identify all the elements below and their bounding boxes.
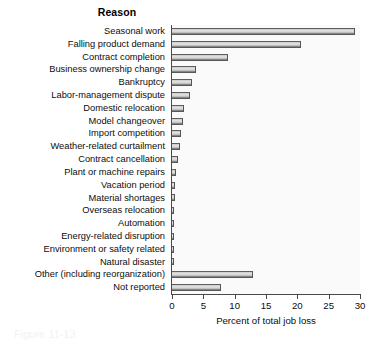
bar-category-label: Other (including reorganization) bbox=[35, 268, 165, 281]
bar-row: Not reported bbox=[0, 281, 382, 294]
bar-row: Domestic relocation bbox=[0, 102, 382, 115]
bar bbox=[172, 143, 180, 150]
bar-row: Weather-related curtailment bbox=[0, 140, 382, 153]
x-tick bbox=[203, 294, 204, 299]
x-tick bbox=[360, 294, 361, 299]
bar-category-label: Automation bbox=[118, 217, 165, 230]
bar-row: Plant or machine repairs bbox=[0, 166, 382, 179]
bar-category-label: Not reported bbox=[113, 281, 165, 294]
bar bbox=[172, 156, 178, 163]
bar bbox=[172, 284, 221, 291]
bar-category-label: Overseas relocation bbox=[82, 204, 165, 217]
figure-caption-ghost: Figure 11-13 bbox=[14, 328, 76, 340]
bar-row: Automation bbox=[0, 217, 382, 230]
bar-row: Overseas relocation bbox=[0, 204, 382, 217]
bar bbox=[172, 182, 175, 189]
x-tick-label: 20 bbox=[282, 300, 312, 311]
x-tick bbox=[297, 294, 298, 299]
bar-row: Environment or safety related bbox=[0, 243, 382, 256]
bar-category-label: Weather-related curtailment bbox=[50, 140, 165, 153]
bar-category-label: Contract cancellation bbox=[78, 153, 165, 166]
bar-category-label: Plant or machine repairs bbox=[64, 166, 165, 179]
bar-category-label: Energy-related disruption bbox=[61, 230, 165, 243]
x-tick-label: 5 bbox=[188, 300, 218, 311]
bar-row: Contract cancellation bbox=[0, 153, 382, 166]
bar bbox=[172, 258, 174, 265]
bar bbox=[172, 169, 176, 176]
bar-category-label: Import competition bbox=[89, 127, 165, 140]
x-tick-label: 10 bbox=[220, 300, 250, 311]
bar-category-label: Business ownership change bbox=[49, 63, 165, 76]
bar-row: Other (including reorganization) bbox=[0, 268, 382, 281]
x-tick-label: 25 bbox=[314, 300, 344, 311]
x-tick bbox=[172, 294, 173, 299]
x-tick-label: 15 bbox=[251, 300, 281, 311]
x-tick bbox=[266, 294, 267, 299]
x-tick bbox=[329, 294, 330, 299]
bar-category-label: Material shortages bbox=[89, 192, 165, 205]
bar-category-label: Falling product demand bbox=[68, 38, 165, 51]
bar bbox=[172, 246, 174, 253]
bar-category-label: Model changeover bbox=[89, 115, 166, 128]
x-tick-label: 0 bbox=[157, 300, 187, 311]
bar-row: Natural disaster bbox=[0, 256, 382, 269]
bar bbox=[172, 79, 192, 86]
bar-category-label: Contract completion bbox=[82, 51, 165, 64]
bar bbox=[172, 28, 355, 35]
bar bbox=[172, 130, 181, 137]
bar-chart-figure: Reason Seasonal workFalling product dema… bbox=[0, 0, 382, 341]
bar bbox=[172, 194, 175, 201]
bar-row: Model changeover bbox=[0, 115, 382, 128]
bar-row: Business ownership change bbox=[0, 63, 382, 76]
bar-row: Bankruptcy bbox=[0, 76, 382, 89]
bar bbox=[172, 220, 174, 227]
bar-row: Material shortages bbox=[0, 192, 382, 205]
bar bbox=[172, 233, 174, 240]
bar-row: Energy-related disruption bbox=[0, 230, 382, 243]
bar-row: Contract completion bbox=[0, 51, 382, 64]
bar-category-label: Domestic relocation bbox=[83, 102, 165, 115]
bar-category-label: Environment or safety related bbox=[44, 243, 165, 256]
bar-row: Import competition bbox=[0, 127, 382, 140]
bar-category-label: Seasonal work bbox=[104, 25, 165, 38]
bar-category-label: Vacation period bbox=[101, 179, 165, 192]
bar bbox=[172, 41, 301, 48]
bar-category-label: Bankruptcy bbox=[118, 76, 165, 89]
bar bbox=[172, 271, 253, 278]
bar-category-label: Natural disaster bbox=[100, 256, 165, 269]
bar-row: Falling product demand bbox=[0, 38, 382, 51]
bar bbox=[172, 92, 190, 99]
bar-row: Labor-management dispute bbox=[0, 89, 382, 102]
bar-row: Vacation period bbox=[0, 179, 382, 192]
bar bbox=[172, 118, 183, 125]
bar bbox=[172, 66, 196, 73]
bar-row: Seasonal work bbox=[0, 25, 382, 38]
x-tick-label: 30 bbox=[345, 300, 375, 311]
chart-title: Reason bbox=[0, 6, 234, 18]
x-tick bbox=[235, 294, 236, 299]
bar bbox=[172, 54, 228, 61]
bar bbox=[172, 105, 184, 112]
x-axis-label: Percent of total job loss bbox=[172, 315, 360, 326]
bar-category-label: Labor-management dispute bbox=[51, 89, 165, 102]
bar bbox=[172, 207, 174, 214]
